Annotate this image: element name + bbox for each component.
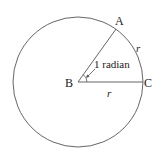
arc-length-label: r (136, 42, 141, 54)
angle-arc (83, 75, 87, 82)
point-label-B: B (65, 76, 73, 90)
radius-BA (78, 29, 116, 82)
radian-diagram: A B C 1 radian r r (0, 0, 157, 157)
angle-label: 1 radian (94, 58, 130, 70)
radius-length-label: r (107, 87, 112, 99)
point-label-C: C (144, 76, 152, 90)
point-label-A: A (115, 14, 124, 28)
